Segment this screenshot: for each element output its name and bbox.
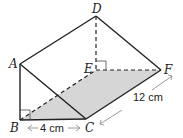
vertex-label-f: F (163, 63, 173, 77)
dimension-label-bc: 4 cm (40, 122, 64, 134)
dimension-arrow-cf-lower (100, 110, 122, 124)
right-angle-marker-e (96, 61, 106, 70)
vertex-label-e: E (83, 62, 93, 76)
vertex-label-c: C (85, 121, 94, 135)
vertex-label-d: D (91, 2, 102, 16)
vertex-label-b: B (9, 121, 19, 135)
edge-ad (20, 16, 96, 64)
vertex-label-a: A (8, 57, 18, 71)
dimension-arrow-cf-upper (152, 76, 172, 90)
dimension-label-cf: 12 cm (133, 91, 163, 103)
prism-diagram: A B C D E F 4 cm 12 cm (0, 0, 183, 138)
